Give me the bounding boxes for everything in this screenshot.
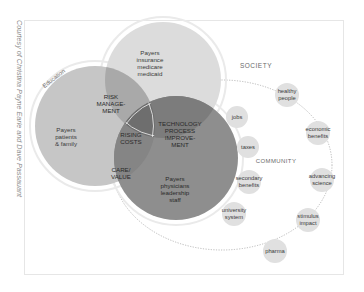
svg-text:people: people [278, 95, 295, 101]
svg-text:COSTS: COSTS [120, 138, 141, 145]
svg-text:science: science [312, 180, 332, 186]
bubble-jobs: jobs [226, 106, 248, 128]
svg-text:economic: economic [306, 126, 331, 132]
svg-text:university: university [222, 207, 247, 213]
svg-text:Payers: Payers [140, 49, 159, 56]
svg-text:MANAGE-: MANAGE- [97, 100, 126, 107]
bubble-stimulus-impact: stimulus impact [296, 208, 320, 232]
svg-text:Payers: Payers [165, 175, 184, 182]
svg-text:RISING: RISING [120, 131, 142, 138]
svg-text:secondary: secondary [236, 175, 263, 181]
svg-text:CARE/: CARE/ [112, 166, 131, 173]
bubble-secondary-benefits: secondary benefits [236, 170, 263, 194]
bubble-pharma: pharma [263, 239, 287, 263]
society-label: SOCIETY [240, 62, 272, 69]
svg-text:benefits: benefits [239, 182, 259, 188]
svg-text:Payers: Payers [56, 126, 75, 133]
svg-text:MENT: MENT [171, 141, 189, 148]
svg-text:system: system [225, 214, 244, 220]
patients-label: Payers patients & family [55, 126, 78, 147]
svg-text:PROCESS: PROCESS [165, 127, 195, 134]
svg-text:TECHNOLOGY: TECHNOLOGY [158, 120, 201, 127]
svg-text:MENT: MENT [102, 107, 120, 114]
svg-text:advancing: advancing [309, 173, 335, 179]
svg-text:medicaid: medicaid [138, 70, 163, 77]
svg-text:& family: & family [55, 140, 78, 147]
rising-costs-label: RISING COSTS [120, 131, 142, 145]
svg-text:pharma: pharma [265, 248, 285, 254]
svg-text:healthy: healthy [278, 88, 297, 94]
svg-text:RISK: RISK [104, 93, 119, 100]
svg-text:patients: patients [55, 133, 77, 140]
svg-text:IMPROVE-: IMPROVE- [165, 134, 196, 141]
bubble-taxes: taxes [237, 136, 259, 158]
care-value-label: CARE/ VALUE [111, 166, 131, 180]
svg-text:leadership: leadership [161, 189, 190, 196]
svg-text:physicians: physicians [161, 182, 190, 189]
svg-text:VALUE: VALUE [111, 173, 131, 180]
venn-diagram: SOCIETY COMMUNITY Education Payers insur… [0, 0, 364, 292]
svg-text:benefits: benefits [308, 133, 328, 139]
svg-text:stimulus: stimulus [297, 213, 318, 219]
bubble-healthy-people: healthy people [275, 83, 299, 107]
svg-text:impact: impact [299, 220, 316, 226]
svg-text:taxes: taxes [241, 144, 255, 150]
bubble-university-system: university system [222, 202, 247, 226]
svg-text:insurance: insurance [137, 56, 164, 63]
svg-text:medicare: medicare [137, 63, 163, 70]
bubble-advancing-science: advancing science [309, 168, 335, 192]
community-label: COMMUNITY [256, 158, 297, 164]
bubble-economic-benefits: economic benefits [306, 121, 331, 145]
svg-text:staff: staff [169, 196, 181, 203]
svg-text:jobs: jobs [231, 114, 243, 120]
